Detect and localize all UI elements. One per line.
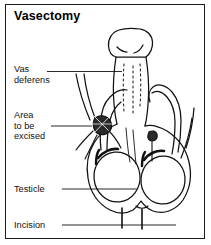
callout-label-vas-deferens: Vas deferens	[14, 64, 50, 85]
callout-label-incision: Incision	[14, 220, 45, 231]
callout-label-area-to-be-excised: Area to be excised	[14, 110, 45, 142]
vasectomy-figure-panel: Vasectomy	[0, 0, 211, 245]
callout-label-testicle: Testicle	[14, 184, 45, 195]
